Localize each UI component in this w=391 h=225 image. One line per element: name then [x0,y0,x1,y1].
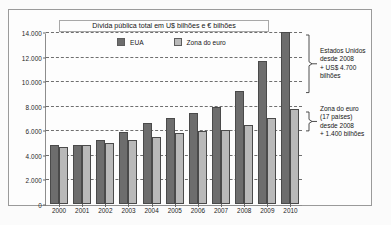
annotation-line: + US$ 4.700 [320,64,366,73]
bar-eua-2006 [189,113,198,204]
bar-eua-2003 [119,132,128,204]
annotation-line: desde 2008 [320,122,364,131]
x-axis-tick-label: 2006 [191,207,205,214]
annotation-zona-do-euro: Zona do euro(17 países)desde 2008+ 1.400… [305,111,364,132]
y-axis-tick-mark [43,57,46,58]
bar-eua-2004 [143,123,152,203]
bar-group: 2008 [233,34,256,204]
bar-group: 2007 [209,34,232,204]
bar-eua-2010 [281,32,290,203]
x-axis-tick-label: 2009 [260,207,274,214]
legend-item-zona-do-euro: Zona do euro [174,38,226,46]
annotation-text-estados-unidos: Estados Unidosdesde 2008+ US$ 4.700bilhõ… [318,47,366,81]
bar-eua-2002 [96,140,105,204]
x-axis-tick-label: 2000 [52,207,66,214]
y-axis-tick-mark [43,155,46,156]
bar-eua-2000 [50,145,59,204]
x-axis-tick-label: 2005 [168,207,182,214]
x-axis-tick-label: 2001 [75,207,89,214]
gridline: 14.000 [46,32,302,33]
bar-zona-do-euro-2007 [221,130,230,204]
y-axis-tick-label: 10.000 [22,79,46,86]
bar-group: 2009 [256,34,279,204]
x-axis-tick-label: 2004 [145,207,159,214]
annotation-line: desde 2008 [320,55,366,64]
bar-group: 2005 [163,34,186,204]
plot-area: 02.0004.0006.0008.00010.00012.00014.000 … [45,34,302,206]
bar-group: 2010 [279,34,302,204]
y-axis-tick-mark [43,205,46,206]
bar-zona-do-euro-2008 [244,125,253,204]
bar-eua-2007 [212,107,221,203]
annotation-line: Zona do euro [320,105,364,114]
bar-group: 2004 [140,34,163,204]
bar-group: 2003 [117,34,140,204]
chart-title: Dívida pública total em U$ bilhões e € b… [59,20,269,32]
y-axis-tick-label: 0 [38,202,46,209]
bar-eua-2005 [166,118,175,204]
bar-group: 2002 [94,34,117,204]
legend-swatch-eua [117,38,125,46]
y-axis-tick-mark [43,180,46,181]
bar-zona-do-euro-2004 [152,137,161,204]
bracket-shape [305,111,318,132]
y-axis-tick-label: 2.000 [26,177,47,184]
y-axis-tick-label: 14.000 [22,30,46,37]
annotation-text-zona-do-euro: Zona do euro(17 países)desde 2008+ 1.400… [318,105,364,139]
annotation-line: Estados Unidos [320,47,366,56]
bar-group: 2006 [186,34,209,204]
annotation-line: (17 países) [320,113,364,122]
bar-zona-do-euro-2001 [82,145,91,203]
bar-eua-2001 [73,145,82,204]
bar-eua-2008 [235,91,244,203]
legend-label-eua: EUA [130,39,144,46]
x-axis-tick-label: 2007 [214,207,228,214]
bracket-shape [305,34,318,94]
y-axis-tick-mark [43,82,46,83]
y-axis-tick-label: 4.000 [26,152,47,159]
y-axis-tick-label: 6.000 [26,128,47,135]
bar-eua-2009 [258,61,267,204]
y-axis-tick-mark [43,106,46,107]
bars-group: 2000200120022003200420052006200720082009… [48,34,303,204]
bar-group: 2001 [71,34,94,204]
x-axis-tick-label: 2008 [237,207,251,214]
bar-zona-do-euro-2003 [128,140,137,204]
y-axis-tick-label: 12.000 [22,54,46,61]
bar-group: 2000 [48,34,71,204]
bracket-icon-euro [305,111,318,132]
annotation-estados-unidos: Estados Unidosdesde 2008+ US$ 4.700bilhõ… [305,34,366,94]
chart-legend: EUA Zona do euro [117,38,226,46]
legend-item-eua: EUA [117,38,144,46]
bracket-icon-usa [305,34,318,94]
annotation-line: bilhões [320,72,366,81]
bar-zona-do-euro-2005 [175,133,184,204]
legend-swatch-zona-do-euro [174,38,182,46]
bar-zona-do-euro-2009 [267,118,276,204]
bar-zona-do-euro-2006 [198,131,207,203]
y-axis-tick-mark [43,131,46,132]
bar-zona-do-euro-2010 [290,109,299,204]
bar-zona-do-euro-2002 [105,143,114,204]
bar-zona-do-euro-2000 [59,147,68,204]
x-axis-tick-label: 2003 [121,207,135,214]
legend-label-zona-do-euro: Zona do euro [187,39,226,46]
y-axis-tick-label: 8.000 [26,103,47,110]
x-axis-tick-label: 2002 [98,207,112,214]
chart-figure-frame: Dívida pública total em U$ bilhões e € b… [8,9,372,206]
y-axis-tick-mark [43,33,46,34]
annotations-group: Estados Unidosdesde 2008+ US$ 4.700bilhõ… [305,32,391,212]
chart-screenshot: Dívida pública total em U$ bilhões e € b… [0,0,391,225]
plot-wrapper: 02.0004.0006.0008.00010.00012.00014.000 … [45,34,302,206]
annotation-line: + 1.400 bilhões [320,130,364,139]
x-axis-tick-label: 2010 [283,207,297,214]
